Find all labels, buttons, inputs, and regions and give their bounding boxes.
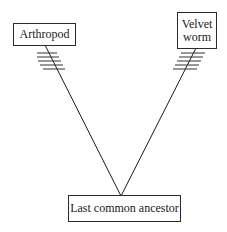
branch-line-arthropod	[45, 45, 121, 196]
node-arthropod: Arthropod	[13, 23, 76, 46]
diagram-canvas: Arthropod Velvet worm Last common ancest…	[0, 0, 227, 232]
node-velvet-worm-label-line2: worm	[183, 31, 211, 44]
node-arthropod-label: Arthropod	[20, 28, 70, 41]
hash-marks-arthropod	[37, 53, 65, 69]
node-velvet-worm-label-line1: Velvet	[182, 18, 213, 31]
node-velvet-worm: Velvet worm	[177, 12, 217, 49]
node-root-label: Last common ancestor	[70, 202, 179, 215]
branch-line-velvet-worm	[121, 48, 196, 196]
node-last-common-ancestor: Last common ancestor	[68, 195, 181, 222]
hash-marks-velvet-worm	[173, 53, 205, 69]
